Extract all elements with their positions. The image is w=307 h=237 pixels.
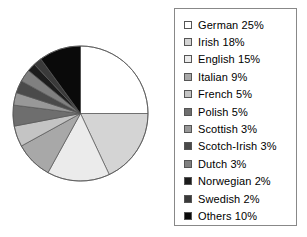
legend-item: Scottish 3%	[184, 120, 296, 137]
pie-slice	[81, 46, 149, 114]
legend-item-label: Dutch 3%	[198, 158, 247, 170]
legend-item-label: Polish 5%	[198, 106, 248, 118]
legend-item: German 25%	[184, 16, 296, 33]
legend-color-swatch	[184, 73, 192, 81]
legend-item-label: Scottish 3%	[198, 123, 257, 135]
pie-chart-figure: German 25%Irish 18%English 15%Italian 9%…	[0, 0, 307, 237]
legend-item-label: French 5%	[198, 88, 252, 100]
legend-color-swatch	[184, 21, 192, 29]
chart-legend: German 25%Irish 18%English 15%Italian 9%…	[174, 8, 297, 226]
legend-item-label: English 15%	[198, 53, 260, 65]
pie-chart-plot-area	[11, 44, 150, 183]
legend-item-label: German 25%	[198, 19, 264, 31]
legend-item: Italian 9%	[184, 68, 296, 85]
legend-item: Dutch 3%	[184, 155, 296, 172]
legend-item: Scotch-Irish 3%	[184, 138, 296, 155]
legend-item: Irish 18%	[184, 33, 296, 50]
legend-color-swatch	[184, 108, 192, 116]
legend-item: Others 10%	[184, 207, 296, 224]
legend-item: French 5%	[184, 86, 296, 103]
legend-item: Norwegian 2%	[184, 173, 296, 190]
legend-item-label: Italian 9%	[198, 71, 247, 83]
legend-item: Polish 5%	[184, 103, 296, 120]
legend-color-swatch	[184, 125, 192, 133]
legend-item-list: German 25%Irish 18%English 15%Italian 9%…	[184, 16, 296, 225]
legend-item: Swedish 2%	[184, 190, 296, 207]
legend-item-label: Scotch-Irish 3%	[198, 140, 277, 152]
legend-item-label: Swedish 2%	[198, 193, 260, 205]
legend-color-swatch	[184, 160, 192, 168]
legend-item: English 15%	[184, 51, 296, 68]
legend-color-swatch	[184, 195, 192, 203]
legend-color-swatch	[184, 177, 192, 185]
legend-color-swatch	[184, 212, 192, 220]
legend-item-label: Norwegian 2%	[198, 175, 271, 187]
legend-color-swatch	[184, 90, 192, 98]
legend-item-label: Irish 18%	[198, 36, 245, 48]
pie-chart-svg	[11, 44, 150, 183]
legend-color-swatch	[184, 55, 192, 63]
legend-color-swatch	[184, 38, 192, 46]
legend-item-label: Others 10%	[198, 210, 257, 222]
legend-color-swatch	[184, 142, 192, 150]
